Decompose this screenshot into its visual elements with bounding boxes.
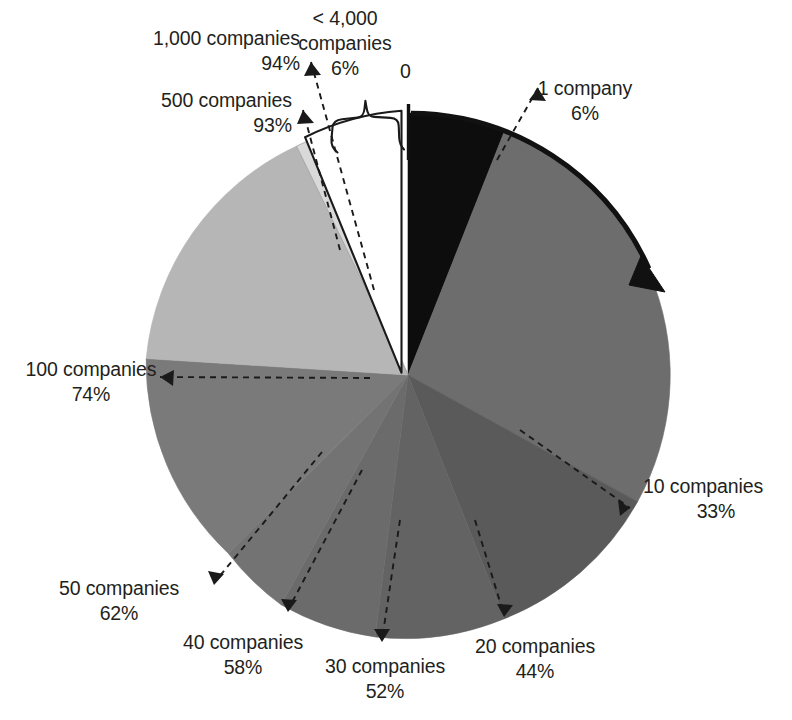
- callout-line-2: 62%: [36, 601, 202, 626]
- callout-line-1: 20 companies: [452, 634, 618, 659]
- callout-line-2: 93%: [80, 113, 292, 138]
- callout-line-1: 50 companies: [36, 576, 202, 601]
- callout-label-40-companies: 40 companies 58%: [160, 630, 326, 680]
- callout-line-1: 1 company: [505, 76, 665, 101]
- callout-line-2: 33%: [643, 499, 789, 524]
- callout-label-500-companies: 500 companies 93%: [80, 88, 292, 138]
- callout-line-2: 6%: [505, 101, 665, 126]
- callout-line-1: 10 companies: [643, 474, 792, 499]
- callout-line-2: companies: [275, 31, 415, 56]
- callout-line-1: 30 companies: [302, 654, 468, 679]
- callout-label-1-company: 1 company 6%: [505, 76, 665, 126]
- callout-line-1: 500 companies: [80, 88, 292, 113]
- zero-tick-label: 0: [400, 60, 411, 83]
- callout-label-20-companies: 20 companies 44%: [452, 634, 618, 684]
- callout-line-3: 6%: [275, 56, 415, 81]
- callout-line-2: 44%: [452, 659, 618, 684]
- callout-line-2: 94%: [80, 51, 300, 76]
- callout-label-50-companies: 50 companies 62%: [36, 576, 202, 626]
- callout-line-1: < 4,000: [275, 6, 415, 31]
- callout-line-2: 74%: [8, 382, 174, 407]
- callout-label-less-than-4000-companies: < 4,000 companies 6%: [275, 6, 415, 81]
- callout-label-100-companies: 100 companies 74%: [8, 357, 174, 407]
- callout-line-1: 1,000 companies: [80, 26, 300, 51]
- callout-line-2: 58%: [160, 655, 326, 680]
- callout-label-1000-companies: 1,000 companies 94%: [80, 26, 300, 76]
- callout-line-1: 100 companies: [8, 357, 174, 382]
- callout-line-1: 40 companies: [160, 630, 326, 655]
- callout-label-10-companies: 10 companies 33%: [643, 474, 792, 524]
- pie-chart-figure: 1,000 companies 94% 500 companies 93% < …: [0, 0, 792, 720]
- callout-label-30-companies: 30 companies 52%: [302, 654, 468, 704]
- pie-slices: [146, 113, 670, 639]
- callout-line-2: 52%: [302, 679, 468, 704]
